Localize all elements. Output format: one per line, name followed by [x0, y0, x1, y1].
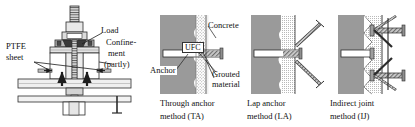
panel-la-drawing [251, 15, 324, 94]
caption-ij-line2: method (IJ) [330, 112, 369, 121]
label-grouted-line1: Grouted [212, 70, 240, 79]
label-confinement-line2: ment [108, 49, 125, 58]
label-anchor: Anchor [149, 66, 177, 75]
label-confinement-line1: Confine- [106, 38, 136, 47]
label-concrete: Concrete [208, 21, 239, 30]
label-ptfe-line1: PTFE [6, 42, 26, 51]
label-confinement-line3: (partly) [104, 60, 130, 69]
label-ufc-text: UFC [182, 42, 204, 53]
caption-ta-line2: method (TA) [160, 112, 204, 121]
caption-ij-line1: Indirect joint [330, 99, 374, 108]
figure-root: Load Confine- ment (partly) PTFE sheet U… [0, 0, 415, 127]
caption-ta-line1: Through anchor [160, 99, 215, 108]
label-grouted-line2: material [212, 80, 240, 89]
label-ufc: UFC [166, 20, 204, 70]
caption-la-line1: Lap anchor [247, 99, 285, 108]
caption-la-line2: method (LA) [247, 112, 292, 121]
label-load: Load [101, 26, 118, 35]
panel-ij-drawing [338, 15, 405, 94]
label-ptfe-line2: sheet [6, 53, 23, 62]
